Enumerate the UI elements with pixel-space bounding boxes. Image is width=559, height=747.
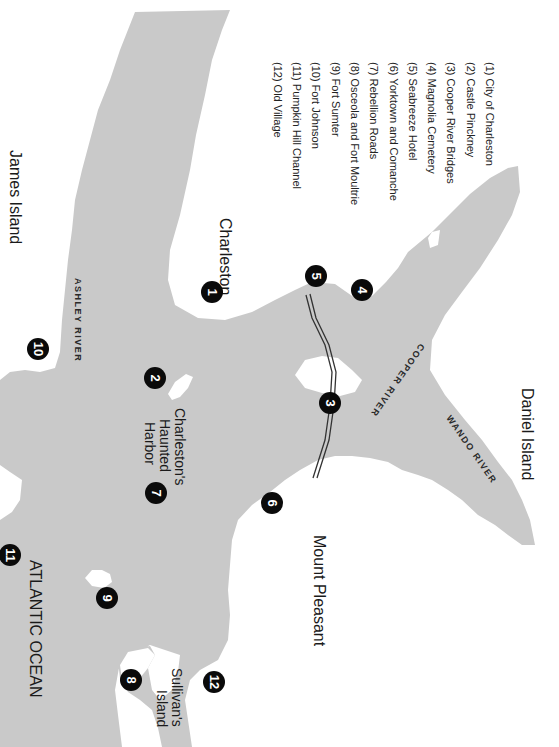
label-sullivans-line1: Sullivan's — [169, 668, 185, 727]
legend-item: (6) Yorktown and Comanche — [388, 62, 400, 201]
marker-number: 2 — [148, 374, 163, 381]
legend-item: (2) Castle Pinckney — [465, 62, 477, 158]
map-marker-6: 6 — [261, 492, 283, 514]
map-marker-7: 7 — [145, 482, 167, 504]
map-marker-2: 2 — [144, 367, 166, 389]
map-marker-5: 5 — [305, 265, 327, 287]
label-charleston: Charleston — [217, 218, 234, 295]
legend-item: (8) Osceola and Fort Moultrie — [349, 62, 361, 205]
harbor-map: Charleston James Island Daniel Island Mo… — [0, 0, 559, 747]
map-marker-4: 4 — [351, 279, 373, 301]
legend-item: (5) Seabreeze Hotel — [407, 62, 419, 160]
marker-number: 10 — [31, 342, 46, 356]
marker-number: 5 — [309, 272, 324, 279]
label-atlantic-ocean: ATLANTIC OCEAN — [27, 560, 44, 698]
map-marker-3: 3 — [319, 392, 341, 414]
label-daniel-island: Daniel Island — [519, 388, 536, 481]
label-ashley-river: ASHLEY RIVER — [73, 278, 83, 362]
label-harbor-line3: Harbor — [142, 422, 158, 465]
legend-item: (1) City of Charleston — [484, 62, 496, 166]
marker-number: 6 — [265, 499, 280, 506]
marker-number: 3 — [323, 399, 338, 406]
marker-number: 8 — [124, 676, 139, 683]
legend-item: (11) Pumpkin Hill Channel — [291, 62, 303, 189]
label-harbor-line1: Charleston's — [172, 408, 188, 485]
marker-number: 7 — [149, 489, 164, 496]
label-harbor-line2: Haunted — [157, 419, 173, 472]
legend-item: (7) Rebellion Roads — [368, 62, 380, 160]
marker-number: 9 — [100, 594, 115, 601]
legend-item: (3) Cooper River Bridges — [445, 62, 457, 184]
label-james-island: James Island — [7, 150, 24, 244]
map-marker-8: 8 — [120, 669, 142, 691]
legend-item: (10) Fort Johnson — [310, 62, 322, 149]
map-marker-10: 10 — [27, 338, 49, 360]
map-marker-12: 12 — [203, 671, 225, 693]
marker-number: 11 — [3, 548, 18, 562]
label-mount-pleasant: Mount Pleasant — [311, 535, 328, 647]
marker-number: 4 — [355, 286, 370, 294]
marker-number: 1 — [205, 288, 220, 295]
legend: (1) City of Charleston(2) Castle Pinckne… — [272, 62, 496, 205]
legend-item: (9) Fort Sumter — [330, 62, 342, 137]
label-sullivans-line2: Island — [154, 690, 170, 727]
map-marker-1: 1 — [201, 281, 223, 303]
marker-number: 12 — [207, 675, 222, 689]
legend-item: (12) Old Village — [272, 62, 284, 138]
map-marker-9: 9 — [96, 587, 118, 609]
legend-item: (4) Magnolia Cemetery — [426, 62, 438, 174]
map-marker-11: 11 — [0, 544, 21, 566]
